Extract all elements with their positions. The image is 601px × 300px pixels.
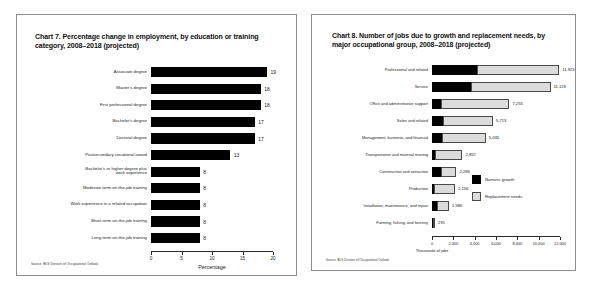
chart7-tick-mark xyxy=(243,252,244,255)
chart8-value-label: 11,923 xyxy=(562,67,575,72)
chart8-tick-mark xyxy=(560,237,561,240)
chart8-value-label: 2,156 xyxy=(458,186,468,191)
chart8-bar-segment-growth xyxy=(432,167,441,177)
chart8-tick-mark xyxy=(539,237,540,240)
chart7-source-note: Source: BLS Division of Occupational Out… xyxy=(31,262,98,266)
chart7-tick-label: 0 xyxy=(139,256,163,261)
chart8-tick-mark xyxy=(496,237,497,240)
chart8-bar-segment-growth xyxy=(432,116,443,126)
chart7-bar xyxy=(151,200,200,210)
chart8-bar-segment-replacement xyxy=(437,201,449,211)
chart7-tick-label: 10 xyxy=(200,256,224,261)
chart8-value-label: 7,255 xyxy=(512,101,522,106)
chart7-category-label: Work experience in a related occupation xyxy=(23,202,147,207)
chart7-bar xyxy=(151,84,261,94)
chart7-bar xyxy=(151,216,200,226)
chart8-plot: Professional and related11,923Service11,… xyxy=(312,15,576,271)
chart7-category-label: Short-term on-the-job training xyxy=(23,219,147,224)
chart8-bar-segment-replacement xyxy=(433,218,435,228)
chart8-source-note: Source: BLS Division of Occupational Out… xyxy=(326,258,389,262)
chart8-tick-mark xyxy=(517,237,518,240)
chart7-bar xyxy=(151,167,200,177)
chart8-value-label: 2,857 xyxy=(465,152,475,157)
chart7-value-label: 13 xyxy=(234,152,240,158)
chart7-value-label: 8 xyxy=(203,235,206,241)
legend-swatch-numeric-growth xyxy=(472,175,481,184)
chart8-bar-segment-replacement xyxy=(434,184,455,194)
chart8-panel: Chart 8. Number of jobs due to growth an… xyxy=(311,14,576,271)
chart7-tick-mark xyxy=(151,252,152,255)
chart7-category-label: Bachelor's degree xyxy=(23,119,147,124)
chart7-value-label: 19 xyxy=(270,69,276,75)
chart7-category-label: Associate degree xyxy=(23,70,147,75)
chart8-category-label: Transportation and material moving xyxy=(316,153,428,158)
chart8-value-label: 2,286 xyxy=(459,169,469,174)
chart7-value-label: 17 xyxy=(258,136,264,142)
legend-swatch-replacement-needs xyxy=(472,192,481,201)
chart8-tick-label: 12,000 xyxy=(546,241,574,246)
chart8-bar-segment-replacement xyxy=(441,99,510,109)
chart7-value-label: 17 xyxy=(258,119,264,125)
chart7-category-label: First professional degree xyxy=(23,103,147,108)
chart7-bar xyxy=(151,117,255,127)
chart7-tick-label: 5 xyxy=(170,256,194,261)
chart8-tick-mark xyxy=(475,237,476,240)
chart7-bar xyxy=(151,133,255,143)
chart8-tick-mark xyxy=(453,237,454,240)
chart7-category-label: Moderate-term on-the-job training xyxy=(23,186,147,191)
chart8-bar-segment-growth xyxy=(432,133,442,143)
chart7-value-label: 8 xyxy=(203,185,206,191)
chart7-value-label: 18 xyxy=(264,102,270,108)
chart7-tick-label: 15 xyxy=(231,256,255,261)
chart7-tick-label: 20 xyxy=(261,256,285,261)
chart8-category-label: Production xyxy=(316,187,428,192)
chart8-bar-segment-replacement xyxy=(435,150,462,160)
chart8-bar-segment-growth xyxy=(432,99,441,109)
chart7-value-label: 8 xyxy=(203,219,206,225)
chart8-category-label: Farming, fishing, and forestry xyxy=(316,221,428,226)
chart7-tick-mark xyxy=(212,252,213,255)
chart8-bar-segment-growth xyxy=(432,82,471,92)
chart8-x-axis-label: Thousands of jobs xyxy=(372,248,492,253)
chart7-bar xyxy=(151,67,267,77)
legend-label: Numeric growth xyxy=(485,175,514,184)
chart7-bar xyxy=(151,233,200,243)
chart8-bar-segment-replacement xyxy=(441,167,456,177)
chart7-category-label: Master's degree xyxy=(23,86,147,91)
chart8-category-label: Installation, maintenance, and repair xyxy=(316,204,428,209)
chart7-panel: Chart 7. Percentage change in employment… xyxy=(16,14,297,276)
chart7-x-axis-label: Percentage xyxy=(151,264,273,270)
chart8-category-label: Office and administrative support xyxy=(316,102,428,107)
chart7-tick-mark xyxy=(182,252,183,255)
chart7-value-label: 8 xyxy=(203,202,206,208)
chart7-plot: Associate degree19Master's degree18First… xyxy=(17,15,297,276)
screenshot-canvas: Chart 7. Percentage change in employment… xyxy=(0,0,601,300)
chart8-bar-segment-replacement xyxy=(477,65,559,75)
chart7-category-label: Postsecondary vocational award xyxy=(23,153,147,158)
chart7-bar xyxy=(151,150,230,160)
chart8-value-label: 5,035 xyxy=(489,135,499,140)
chart8-category-label: Service xyxy=(316,85,428,90)
chart8-value-label: 1,586 xyxy=(452,203,462,208)
chart8-bar-segment-replacement xyxy=(471,82,551,92)
chart8-category-label: Management, business, and financial xyxy=(316,136,428,141)
chart8-value-label: 291 xyxy=(438,220,445,225)
chart7-category-label: Long-term on-the-job training xyxy=(23,236,147,241)
chart7-value-label: 8 xyxy=(203,169,206,175)
chart8-bar-segment-replacement xyxy=(443,116,493,126)
legend-label: Replacement needs xyxy=(485,192,522,201)
chart7-bar xyxy=(151,100,261,110)
chart7-category-label: Bachelor's or higher degree plus work ex… xyxy=(23,167,147,177)
chart8-category-label: Sales and related xyxy=(316,119,428,124)
chart7-bar xyxy=(151,183,200,193)
chart8-bar-segment-growth xyxy=(432,65,477,75)
chart8-tick-mark xyxy=(432,237,433,240)
chart8-value-label: 5,713 xyxy=(496,118,506,123)
chart7-category-label: Doctoral degree xyxy=(23,136,147,141)
chart8-category-label: Professional and related xyxy=(316,68,428,73)
chart7-value-label: 18 xyxy=(264,86,270,92)
chart8-bar-segment-replacement xyxy=(442,133,486,143)
chart7-tick-mark xyxy=(273,252,274,255)
chart8-value-label: 11,118 xyxy=(554,84,566,89)
chart8-category-label: Construction and extraction xyxy=(316,170,428,175)
